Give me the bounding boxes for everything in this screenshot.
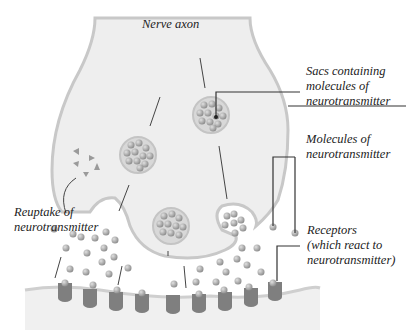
receptors-label: Receptors (which react to neurotransmitt… <box>307 223 395 268</box>
synapse-diagram <box>0 0 406 335</box>
nerve-axon-label: Nerve axon <box>142 17 199 32</box>
sacs-label: Sacs containing molecules of neurotransm… <box>306 64 390 109</box>
reuptake-label: Reuptake of neurotransmitter <box>14 205 98 235</box>
molecules-label: Molecules of neurotransmitter <box>306 132 390 162</box>
